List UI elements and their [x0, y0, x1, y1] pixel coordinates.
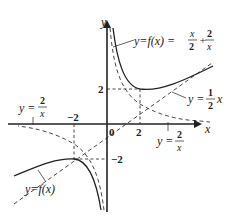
svg-text:2: 2	[189, 41, 194, 52]
label-reciprocal-left: y = 2 x	[18, 95, 47, 125]
tick-x-neg2: −2	[67, 111, 79, 123]
label-reciprocal-right: y = 2 x	[156, 122, 184, 153]
leader-line-asymptote	[172, 92, 186, 98]
svg-text:y =: y =	[18, 101, 35, 115]
svg-text:x: x	[176, 142, 182, 153]
svg-text:x: x	[39, 108, 45, 119]
svg-text:y=f(x): y=f(x)	[24, 182, 55, 196]
svg-text:y =: y =	[156, 134, 173, 148]
svg-text:2: 2	[177, 129, 182, 140]
svg-text:y=f(x) =: y=f(x) =	[133, 34, 175, 48]
origin-label: 0	[109, 126, 115, 138]
svg-text:2: 2	[40, 95, 45, 106]
svg-text:2: 2	[207, 28, 212, 39]
svg-text:2: 2	[208, 100, 213, 111]
x-axis-label: x	[204, 122, 211, 136]
svg-text:1: 1	[208, 87, 213, 98]
tick-y-2: 2	[98, 83, 104, 95]
label-function-definition: y=f(x) = x 2 + 2 x	[113, 28, 214, 52]
reciprocal-curve-negative	[18, 126, 104, 210]
label-function-bottom: y=f(x)	[24, 170, 55, 196]
svg-text:x: x	[189, 28, 195, 39]
leader-line-function-bottom	[38, 170, 46, 182]
svg-text:y =: y =	[187, 92, 204, 106]
svg-text:x: x	[206, 41, 212, 52]
leader-line-function	[113, 40, 134, 47]
tick-y-neg2: −2	[111, 153, 123, 165]
tick-x-2: 2	[136, 126, 142, 138]
label-asymptote: y = 1 2 x	[172, 87, 223, 111]
function-graph: y x 0 2 −2 2 −2 y=f(x) = x 2 + 2 x y = 1…	[0, 0, 234, 216]
svg-text:x: x	[216, 92, 223, 106]
y-axis-label: y	[100, 15, 107, 29]
